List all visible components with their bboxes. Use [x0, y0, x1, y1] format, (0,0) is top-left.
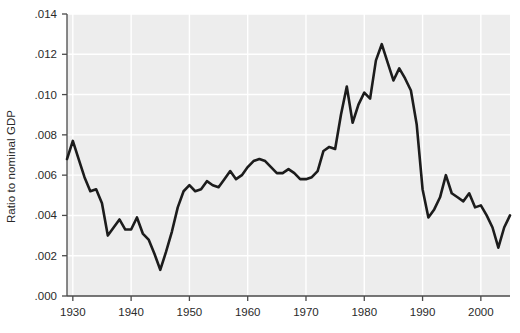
- x-axis-ticks-group: 19301940195019601970198019902000: [60, 296, 494, 318]
- x-axis-tick-label: 2000: [468, 306, 494, 318]
- y-axis-tick-label: .006: [35, 169, 57, 181]
- x-axis-tick-label: 1930: [60, 306, 86, 318]
- line-chart-svg: .000.002.004.006.008.010.012.014 1930194…: [0, 0, 520, 333]
- chart-container: Ratio to nominal GDP .000.002.004.006.00…: [0, 0, 520, 333]
- y-axis-tick-label: .000: [35, 290, 57, 302]
- x-axis-tick-label: 1970: [293, 306, 319, 318]
- y-axis-tick-label: .008: [35, 129, 57, 141]
- y-axis-ticks-group: .000.002.004.006.008.010.012.014: [35, 8, 67, 302]
- plot-background: [67, 14, 510, 296]
- y-axis-tick-label: .010: [35, 89, 57, 101]
- y-axis-tick-label: .014: [35, 8, 58, 20]
- y-axis-tick-label: .012: [35, 48, 57, 60]
- plot-area-wrapper: .000.002.004.006.008.010.012.014 1930194…: [0, 0, 520, 333]
- x-axis-tick-label: 1950: [177, 306, 203, 318]
- x-axis-tick-label: 1990: [410, 306, 436, 318]
- x-axis-tick-label: 1960: [235, 306, 261, 318]
- x-axis-tick-label: 1980: [351, 306, 377, 318]
- y-axis-tick-label: .002: [35, 250, 57, 262]
- y-axis-tick-label: .004: [35, 209, 58, 221]
- x-axis-tick-label: 1940: [118, 306, 144, 318]
